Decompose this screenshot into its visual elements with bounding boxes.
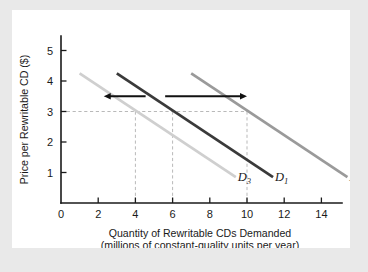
x-tick-label-12: 12 — [278, 208, 290, 220]
demand-shift-chart: 1234502468101214D3D1D2Price per Rewritab… — [12, 10, 350, 248]
figure-root: 1234502468101214D3D1D2Price per Rewritab… — [0, 0, 368, 272]
x-axis-title: Quantity of Rewritable CDs Demanded — [109, 227, 292, 239]
decrease-in-demand-arrow-head — [104, 93, 111, 99]
curve-label-D3: D3 — [237, 170, 251, 186]
x-tick-label-0: 0 — [58, 208, 64, 220]
x-tick-label-2: 2 — [95, 208, 101, 220]
y-axis-title: Price per Rewritable CD ($) — [18, 55, 30, 185]
x-tick-label-4: 4 — [132, 208, 138, 220]
chart-panel: 1234502468101214D3D1D2Price per Rewritab… — [12, 10, 350, 248]
y-tick-label-5: 5 — [47, 45, 53, 57]
increase-in-demand-arrow-head — [240, 93, 247, 99]
y-tick-label-2: 2 — [47, 136, 53, 148]
demand-curve-D1 — [117, 73, 273, 177]
x-tick-label-6: 6 — [170, 208, 176, 220]
x-tick-label-10: 10 — [241, 208, 253, 220]
curve-label-D1: D1 — [274, 170, 288, 186]
y-tick-label-4: 4 — [47, 75, 53, 87]
x-axis-subtitle: (millions of constant-quality units per … — [101, 239, 299, 248]
x-tick-label-14: 14 — [315, 208, 327, 220]
x-tick-label-8: 8 — [207, 208, 213, 220]
curve-label-D2: D2 — [348, 170, 350, 186]
y-tick-label-1: 1 — [47, 167, 53, 179]
y-tick-label-3: 3 — [47, 106, 53, 118]
